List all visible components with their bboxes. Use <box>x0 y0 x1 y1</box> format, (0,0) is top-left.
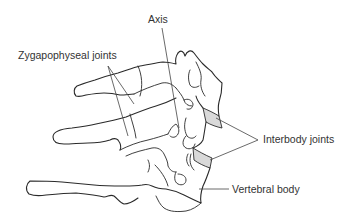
interbody-leader-line-lower <box>210 140 258 160</box>
c3-vertebra <box>53 98 206 150</box>
interbody-joints-label: Interbody joints <box>263 134 334 145</box>
interbody-leader-line-upper <box>216 118 258 140</box>
c4-vertebra <box>26 148 210 212</box>
axis-label: Axis <box>148 14 168 25</box>
vertebral-body-label: Vertebral body <box>232 184 300 195</box>
zygapophyseal-leader-line-2 <box>108 66 128 136</box>
interbody-disc-lower <box>193 148 212 168</box>
axis-leader-line <box>162 28 179 128</box>
zygapophyseal-joints-label: Zygapophyseal joints <box>18 50 117 61</box>
